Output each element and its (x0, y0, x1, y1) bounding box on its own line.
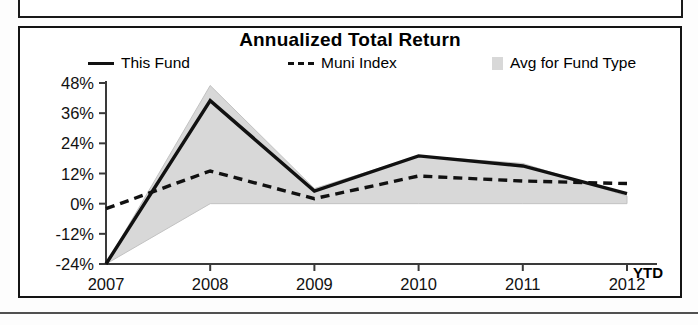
top-partial-box (18, 0, 683, 18)
y-axis-tick-label: 36% (61, 104, 94, 122)
x-axis-tick-label: 2009 (296, 275, 333, 293)
y-axis-tick-label: 0% (70, 195, 94, 213)
y-axis-tick-label: 48% (61, 74, 94, 92)
y-axis-tick-label: -12% (55, 225, 94, 243)
x-axis-tick-label: 2007 (88, 275, 125, 293)
bottom-separator-rule (0, 312, 698, 314)
chart-plot-svg: 48%36%24%12%0%-12%-24%200720082009201020… (20, 28, 680, 296)
x-axis-ytd-label: YTD (633, 264, 663, 281)
x-axis-tick-label: 2011 (505, 275, 540, 293)
y-axis-tick-label: -24% (55, 255, 94, 273)
x-axis-tick-label: 2010 (400, 275, 437, 293)
y-axis-tick-label: 12% (61, 165, 94, 183)
x-axis-tick-label: 2008 (192, 275, 229, 293)
annualized-total-return-panel: Annualized Total Return This Fund Muni I… (18, 26, 682, 298)
y-axis-tick-label: 24% (61, 134, 94, 152)
plot-area: 48%36%24%12%0%-12%-24%200720082009201020… (20, 28, 680, 296)
scanned-page: Annualized Total Return This Fund Muni I… (0, 0, 698, 325)
